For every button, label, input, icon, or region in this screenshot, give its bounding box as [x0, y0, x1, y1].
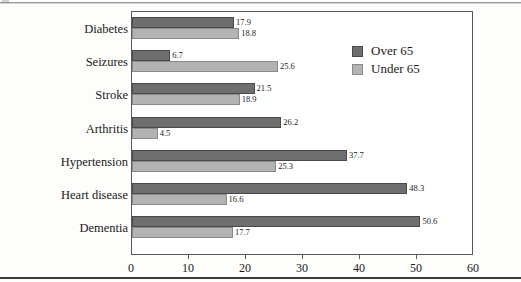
chart-page: DiabetesSeizuresStrokeArthritisHypertens…: [0, 0, 521, 282]
bar-under-65: [132, 128, 158, 139]
category-label: Stroke: [3, 89, 128, 102]
bar-value-label: 50.6: [422, 217, 437, 226]
bar-value-label: 17.9: [236, 18, 251, 27]
x-tick-label: 20: [239, 262, 251, 274]
x-tick-label: 10: [182, 262, 194, 274]
bar-value-label: 25.6: [280, 62, 295, 71]
bar-value-label: 18.8: [241, 29, 256, 38]
x-tick-mark: [302, 255, 303, 259]
x-tick-mark: [359, 255, 360, 259]
bar-under-65: [132, 61, 278, 72]
x-tick-mark: [416, 255, 417, 259]
x-tick-mark: [188, 255, 189, 259]
bar-value-label: 25.3: [278, 162, 293, 171]
category-label: Arthritis: [3, 123, 128, 136]
category-label: Seizures: [3, 56, 128, 69]
bar-over-65: [132, 17, 234, 28]
x-tick-label: 60: [467, 262, 479, 274]
bar-under-65: [132, 194, 227, 205]
bar-over-65: [132, 83, 255, 94]
x-tick-mark: [245, 255, 246, 259]
x-tick-label: 40: [353, 262, 365, 274]
bar-value-label: 37.7: [349, 151, 364, 160]
page-bottom-rule: [0, 277, 521, 279]
legend-item-over-65[interactable]: Over 65: [352, 43, 442, 61]
bar-over-65: [132, 216, 420, 227]
category-label: Heart disease: [3, 189, 128, 202]
legend-swatch-under-65-icon: [352, 64, 363, 75]
bar-under-65: [132, 94, 240, 105]
bar-value-label: 4.5: [160, 129, 171, 138]
category-label: Hypertension: [3, 156, 128, 169]
legend-swatch-over-65-icon: [352, 46, 363, 57]
bar-over-65: [132, 117, 281, 128]
bar-under-65: [132, 161, 276, 172]
bar-value-label: 6.7: [172, 51, 183, 60]
bar-value-label: 26.2: [283, 118, 298, 127]
bar-over-65: [132, 150, 347, 161]
category-label: Dementia: [3, 222, 128, 235]
category-axis-labels: DiabetesSeizuresStrokeArthritisHypertens…: [0, 0, 128, 282]
x-tick-label: 50: [410, 262, 422, 274]
bar-over-65: [132, 50, 170, 61]
legend-label-over-65: Over 65: [371, 43, 413, 59]
bar-over-65: [132, 183, 407, 194]
x-tick-label: 30: [296, 262, 308, 274]
chart-legend: Over 65 Under 65: [352, 43, 442, 79]
bar-value-label: 21.5: [257, 84, 272, 93]
x-tick-label: 0: [128, 262, 134, 274]
legend-item-under-65[interactable]: Under 65: [352, 61, 442, 79]
bar-value-label: 17.7: [235, 228, 250, 237]
bar-value-label: 48.3: [409, 184, 424, 193]
bar-under-65: [132, 227, 233, 238]
bar-under-65: [132, 28, 239, 39]
category-label: Diabetes: [3, 23, 128, 36]
legend-label-under-65: Under 65: [371, 61, 420, 77]
bar-value-label: 18.9: [242, 95, 257, 104]
bar-value-label: 16.6: [229, 195, 244, 204]
